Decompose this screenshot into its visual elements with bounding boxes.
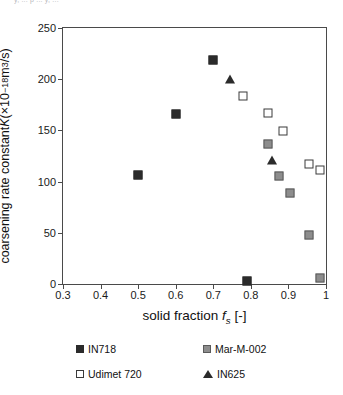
data-point — [134, 171, 143, 180]
legend-marker — [203, 370, 213, 378]
plot-area: 0501001502002500.30.40.50.60.70.80.91 — [62, 27, 327, 285]
legend-item-mar-m-002[interactable]: Mar-M-002 — [203, 343, 266, 355]
x-axis-tick-label: 0.7 — [206, 289, 221, 301]
marker-gray-square — [203, 345, 211, 353]
marker-filled-square — [243, 276, 252, 285]
marker-filled-triangle — [203, 370, 213, 378]
x-axis-tick-label: 0.8 — [243, 289, 258, 301]
data-point — [171, 110, 180, 119]
data-point — [316, 273, 325, 282]
x-axis-tick-label: 0.9 — [281, 289, 296, 301]
marker-open-square — [316, 166, 325, 175]
x-axis-tick-label: 0.5 — [130, 289, 145, 301]
y-axis-tick — [58, 182, 63, 183]
y-axis-tick — [58, 28, 63, 29]
legend-marker — [76, 345, 84, 353]
marker-filled-square — [171, 110, 180, 119]
chart-figure: y, ... p ... y, ... coarsening rate cons… — [0, 0, 343, 395]
x-axis-tick-label: 0.4 — [93, 289, 108, 301]
marker-open-square — [76, 370, 84, 378]
y-axis-title-exponent-2: 3 — [0, 62, 10, 67]
y-axis-title-symbol: K — [0, 118, 12, 126]
data-point — [225, 75, 235, 84]
y-axis-title-units-close: /s) — [0, 48, 12, 62]
x-axis-title-suffix: [-] — [231, 308, 247, 323]
data-point — [305, 230, 314, 239]
legend-item-in718[interactable]: IN718 — [76, 343, 116, 355]
marker-open-square — [278, 127, 287, 136]
legend-marker — [76, 370, 84, 378]
data-point — [239, 91, 248, 100]
x-axis-tick-label: 0.3 — [55, 289, 70, 301]
x-axis-tick-label: 1 — [323, 289, 329, 301]
marker-open-square — [263, 108, 272, 117]
marker-filled-triangle — [225, 75, 235, 84]
legend-marker — [203, 345, 211, 353]
data-point — [263, 108, 272, 117]
y-axis-tick-label: 150 — [38, 124, 56, 136]
y-axis-title-units-mid: m — [0, 67, 12, 77]
data-point — [267, 156, 277, 165]
y-axis-tick-label: 250 — [38, 22, 56, 34]
marker-open-square — [239, 91, 248, 100]
y-axis-tick-label: 100 — [38, 176, 56, 188]
legend-label: IN718 — [88, 343, 116, 355]
legend-item-udimet-720[interactable]: Udimet 720 — [76, 368, 142, 380]
marker-open-square — [305, 160, 314, 169]
marker-gray-square — [275, 172, 284, 181]
marker-filled-square — [76, 345, 84, 353]
y-axis-tick — [58, 130, 63, 131]
marker-filled-triangle — [267, 156, 277, 165]
y-axis-title: coarsening rate constant K (×10−18 m3/s) — [0, 27, 14, 285]
x-axis-title-prefix: solid fraction — [143, 308, 223, 323]
y-axis-tick — [58, 79, 63, 80]
marker-gray-square — [286, 188, 295, 197]
data-point — [316, 166, 325, 175]
x-axis-title: solid fraction fs [-] — [62, 308, 327, 326]
y-axis-title-units-open: (×10 — [0, 93, 12, 118]
legend-item-in625[interactable]: IN625 — [203, 368, 245, 380]
data-point — [209, 55, 218, 64]
marker-filled-square — [134, 171, 143, 180]
x-axis-tick-label: 0.6 — [168, 289, 183, 301]
marker-gray-square — [316, 273, 325, 282]
data-point — [243, 276, 252, 285]
y-axis-tick-label: 50 — [44, 227, 56, 239]
data-point — [275, 172, 284, 181]
marker-gray-square — [263, 139, 272, 148]
chart-legend: IN718Mar-M-002Udimet 720IN625 — [62, 343, 327, 389]
marker-filled-square — [209, 55, 218, 64]
y-axis-title-exponent: −18 — [0, 78, 10, 93]
data-point — [263, 139, 272, 148]
clipped-header-text: y, ... p ... y, ... — [14, 0, 334, 6]
y-axis-tick — [58, 233, 63, 234]
legend-label: IN625 — [217, 368, 245, 380]
marker-gray-square — [305, 230, 314, 239]
y-axis-title-prefix: coarsening rate constant — [0, 127, 12, 264]
data-point — [305, 160, 314, 169]
legend-label: Mar-M-002 — [215, 343, 266, 355]
legend-label: Udimet 720 — [88, 368, 142, 380]
data-point — [286, 188, 295, 197]
y-axis-tick-label: 200 — [38, 73, 56, 85]
data-point — [278, 127, 287, 136]
